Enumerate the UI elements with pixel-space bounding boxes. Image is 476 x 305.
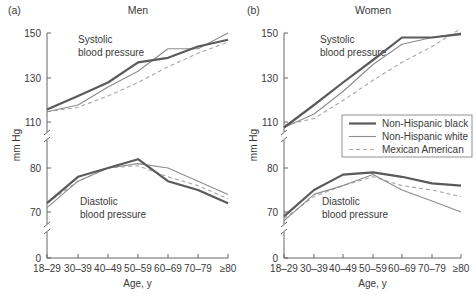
x-tick-label: 60–69 (388, 263, 416, 274)
diastolic-label: Diastolic (80, 196, 118, 207)
panel-title: Men (128, 4, 149, 16)
panel-label: (b) (247, 4, 260, 16)
x-tick-label: 18–29 (33, 263, 61, 274)
y-tick-label: 0 (272, 253, 278, 264)
y-tick-label: 0 (35, 253, 41, 264)
x-tick-label: 70–79 (184, 263, 212, 274)
x-tick-label: 60–69 (154, 263, 182, 274)
x-tick-label: ≥80 (220, 263, 237, 274)
y-tick-label: 110 (25, 117, 41, 128)
y-axis-label: mm Hg (11, 129, 22, 161)
y-tick-label: 150 (24, 28, 41, 39)
x-tick-label: 40–49 (94, 263, 122, 274)
y-tick-label: 70 (267, 207, 279, 218)
x-tick-label: 50–59 (359, 263, 387, 274)
x-tick-label: ≥80 (453, 263, 470, 274)
x-axis-label: Age, y (123, 278, 151, 289)
x-tick-label: 18–29 (270, 263, 298, 274)
y-tick-label: 80 (267, 163, 279, 174)
figure: (a)Men15013011080700mm Hg18–2930–3940–49… (0, 0, 476, 305)
x-tick-label: 30–39 (300, 263, 328, 274)
diastolic-line-non-hispanic-white (47, 164, 228, 208)
legend-entry: Non-Hispanic white (382, 131, 469, 142)
legend-entry: Mexican American (382, 144, 464, 155)
cropped-caption (0, 296, 476, 305)
diastolic-label: blood pressure (80, 209, 147, 220)
y-tick-label: 70 (30, 207, 42, 218)
x-tick-label: 40–49 (329, 263, 357, 274)
y-tick-label: 130 (24, 73, 41, 84)
panel-label: (a) (8, 4, 21, 16)
x-tick-label: 50–59 (124, 263, 152, 274)
legend-entry: Non-Hispanic black (382, 118, 469, 129)
y-tick-label: 80 (30, 163, 42, 174)
x-tick-label: 70–79 (418, 263, 446, 274)
y-axis-label: mm Hg (248, 129, 259, 161)
diastolic-label: blood pressure (322, 209, 389, 220)
systolic-label: blood pressure (78, 47, 145, 58)
systolic-label: Systolic (320, 34, 354, 45)
systolic-line-mexican-american (284, 29, 461, 126)
panel-title: Women (355, 4, 391, 16)
y-tick-label: 110 (262, 117, 278, 128)
y-tick-label: 150 (261, 28, 278, 39)
x-tick-label: 30–39 (64, 263, 92, 274)
blood-pressure-chart: (a)Men15013011080700mm Hg18–2930–3940–49… (0, 0, 476, 305)
systolic-label: Systolic (78, 34, 112, 45)
x-axis-label: Age, y (358, 278, 386, 289)
y-tick-label: 130 (261, 73, 278, 84)
diastolic-label: Diastolic (322, 196, 360, 207)
